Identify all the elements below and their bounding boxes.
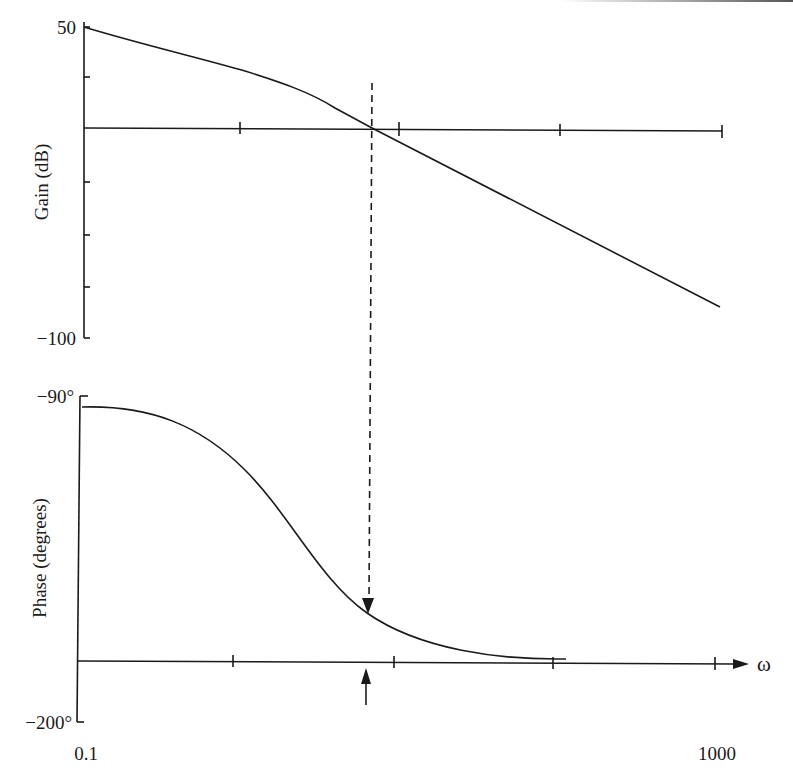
phase-bottom-label: −200°: [25, 712, 72, 733]
phase-y-axis: [77, 396, 88, 722]
omega-axis-arrowhead-icon: [733, 659, 749, 669]
gain-top-label: 50: [57, 17, 76, 38]
phase-curve: [82, 407, 566, 659]
gain-bottom-label: −100: [37, 328, 76, 349]
gain-zero-db-axis: [84, 122, 722, 138]
gain-curve: [84, 27, 720, 307]
crossover-dashed-line: [369, 83, 372, 600]
phase-axis-title: Phase (degrees): [29, 498, 51, 618]
x-right-label: 1000: [698, 743, 736, 764]
phase-top-label: −90°: [37, 386, 74, 407]
phase-margin-arrowhead-icon: [361, 668, 371, 684]
bode-plot: 50 −100 Gain (dB) −90° −200° Phase (degr…: [0, 0, 793, 783]
phase-omega-axis: [77, 655, 735, 670]
gain-y-axis: [84, 22, 90, 338]
omega-label: ω: [757, 652, 771, 676]
x-left-label: 0.1: [74, 743, 98, 764]
gain-axis-title: Gain (dB): [31, 144, 53, 221]
